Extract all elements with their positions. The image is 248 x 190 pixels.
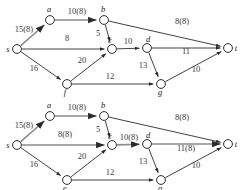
- edge-label-bottom-s-c: 8(8): [58, 129, 72, 139]
- edge-label-bottom-a-b: 10(8): [68, 102, 87, 112]
- edge-label-top-a-b: 10(8): [68, 6, 87, 16]
- edge-bottom-e-c: [71, 150, 106, 177]
- node-top-b[interactable]: [100, 16, 109, 25]
- edge-label-top-f-g: 12: [106, 71, 115, 81]
- node-label-top-g: g: [158, 87, 162, 97]
- node-top-s[interactable]: [13, 45, 22, 54]
- edge-top-c-d: [117, 48, 139, 49]
- node-bottom-a[interactable]: [46, 112, 55, 121]
- edge-label-bottom-c-d: 10(8): [120, 132, 139, 142]
- edge-label-top-c-d: 10: [124, 36, 133, 46]
- edge-label-top-s-f: 16: [30, 63, 39, 73]
- edge-label-bottom-e-g: 12: [106, 167, 115, 177]
- edge-label-bottom-d-t: 11(8): [177, 143, 195, 153]
- edge-label-bottom-b-c: 5: [96, 124, 100, 134]
- edge-bottom-d-g: [149, 149, 158, 173]
- edge-label-top-b-c: 5: [96, 28, 100, 38]
- diagram-bottom: 15(8)10(8)58(8)8(8)10(8)11(8)1620121310s…: [6, 100, 237, 190]
- node-label-bottom-s: s: [6, 140, 10, 150]
- diagrams-root: 15(8)10(8)58(8)810111620121310sabcdfgt15…: [6, 4, 237, 190]
- edge-label-top-g-t: 10: [192, 64, 201, 74]
- edge-label-top-s-a: 15(8): [15, 24, 34, 34]
- node-label-bottom-c: c: [108, 131, 112, 141]
- edge-top-f-c: [71, 54, 106, 81]
- node-label-top-a: a: [47, 4, 51, 14]
- edge-label-bottom-d-g: 13: [139, 156, 148, 166]
- edge-label-top-d-g: 13: [139, 60, 148, 70]
- node-bottom-d[interactable]: [143, 140, 152, 149]
- edge-bottom-s-e: [21, 148, 61, 176]
- edge-label-bottom-s-e: 16: [30, 159, 39, 169]
- edge-top-s-f: [21, 52, 61, 80]
- diagram-top: 15(8)10(8)58(8)810111620121310sabcdfgt: [6, 4, 237, 97]
- edge-label-top-d-t: 11: [182, 46, 190, 56]
- network-flow-figure: 15(8)10(8)58(8)810111620121310sabcdfgt15…: [0, 0, 248, 190]
- edge-label-bottom-b-t: 8(8): [175, 112, 189, 122]
- node-bottom-c[interactable]: [108, 141, 117, 150]
- node-label-top-t: t: [235, 43, 238, 53]
- edge-label-bottom-s-a: 15(8): [15, 120, 34, 130]
- node-label-bottom-a: a: [47, 100, 51, 110]
- edge-label-bottom-g-t: 10: [192, 160, 201, 170]
- edge-label-top-s-c: 8: [65, 33, 69, 43]
- node-label-bottom-b: b: [101, 100, 105, 110]
- edge-label-top-f-c: 20: [78, 55, 87, 65]
- node-label-top-s: s: [6, 44, 10, 54]
- node-top-c[interactable]: [108, 45, 117, 54]
- edge-bottom-c-d: [117, 144, 139, 145]
- node-label-bottom-d: d: [146, 130, 151, 140]
- node-bottom-b[interactable]: [100, 112, 109, 121]
- figure-canvas: 15(8)10(8)58(8)810111620121310sabcdfgt15…: [0, 0, 248, 190]
- node-top-d[interactable]: [143, 44, 152, 53]
- edge-label-top-b-t: 8(8): [175, 16, 189, 26]
- node-label-top-c: c: [108, 35, 112, 45]
- node-label-bottom-e: e: [63, 183, 67, 190]
- node-label-top-d: d: [146, 34, 151, 44]
- node-label-bottom-t: t: [235, 139, 238, 149]
- node-top-a[interactable]: [46, 16, 55, 25]
- node-bottom-s[interactable]: [13, 141, 22, 150]
- node-bottom-t[interactable]: [224, 140, 233, 149]
- node-label-bottom-g: g: [158, 183, 162, 190]
- edge-top-d-g: [149, 53, 158, 77]
- node-top-t[interactable]: [224, 44, 233, 53]
- node-label-top-b: b: [101, 4, 105, 14]
- edge-label-bottom-e-c: 20: [78, 151, 87, 161]
